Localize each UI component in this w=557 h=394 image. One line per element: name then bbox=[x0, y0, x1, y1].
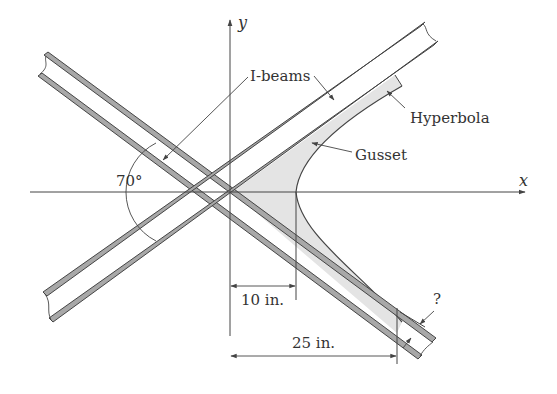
unknown-label: ? bbox=[433, 290, 441, 308]
ibeams-label: I-beams bbox=[250, 67, 310, 85]
beam-break-lower-left bbox=[45, 294, 51, 320]
angle-label: 70° bbox=[116, 172, 143, 190]
gusset-label: Gusset bbox=[355, 146, 407, 164]
beam-break-upper-left bbox=[40, 56, 46, 74]
dim-25-label: 25 in. bbox=[292, 334, 335, 352]
dim-10-label: 10 in. bbox=[241, 291, 284, 309]
hyperbola-label: Hyperbola bbox=[410, 109, 490, 127]
ibeams-leader-left bbox=[163, 77, 248, 160]
hyperbola-gusset-diagram: x y I-beams Hyperbola Gusset 70° 10 in. … bbox=[0, 0, 557, 394]
beam-break-upper-right bbox=[423, 24, 436, 41]
x-axis-label: x bbox=[519, 171, 528, 190]
ibeams-leader-right bbox=[314, 76, 334, 100]
y-axis-label: y bbox=[237, 13, 248, 32]
hyperbola-leader bbox=[387, 91, 405, 108]
beam-break-lower-right bbox=[420, 342, 433, 356]
unknown-leader-top bbox=[420, 311, 434, 324]
ibeam-ascending bbox=[43, 22, 438, 322]
